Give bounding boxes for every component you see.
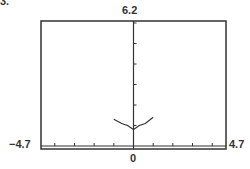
origin-label: 0: [130, 152, 136, 164]
graph-window: [0, 0, 250, 169]
ymax-label: 6.2: [122, 4, 137, 16]
xmin-label: −4.7: [9, 138, 31, 150]
xmax-label: 4.7: [229, 138, 244, 150]
